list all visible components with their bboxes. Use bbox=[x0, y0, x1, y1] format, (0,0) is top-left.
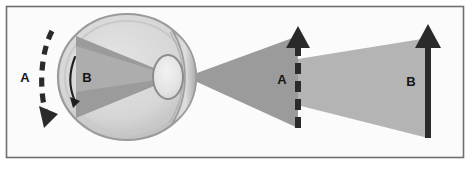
far-object-arrow-label: B bbox=[406, 74, 415, 89]
retina-arrow-b-label: B bbox=[82, 70, 91, 85]
near-object-arrow-label: A bbox=[277, 72, 287, 87]
crystalline-lens bbox=[153, 55, 183, 99]
eye-optics-diagram: A B A B bbox=[0, 0, 471, 174]
accommodation-arrow-a-label: A bbox=[20, 70, 30, 85]
